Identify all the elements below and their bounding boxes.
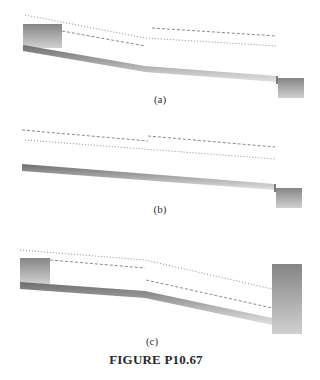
channel-end-step: [274, 184, 276, 192]
panel-label-b: (b): [154, 203, 167, 216]
dashed-line-2: [146, 280, 272, 308]
dashed-line-1: [22, 130, 148, 141]
dashed-line-1: [50, 260, 145, 268]
upstream-reservoir: [23, 24, 62, 48]
channel-bed: [20, 282, 272, 325]
panel-label-a: (a): [154, 93, 167, 106]
dotted-line: [20, 250, 272, 289]
channel-end-step: [276, 76, 278, 84]
channel-bed: [22, 164, 275, 190]
dashed-line-2: [152, 28, 277, 36]
downstream-reservoir: [272, 264, 302, 334]
dashed-line-1: [62, 31, 145, 46]
upstream-reservoir: [20, 258, 50, 284]
dashed-line-2: [148, 136, 275, 147]
dotted-line: [25, 15, 277, 46]
figure-p10-67: (a) (b) (c) FIGURE P10.67: [0, 0, 320, 380]
channel-bed: [23, 45, 277, 82]
downstream-reservoir: [278, 78, 304, 98]
panel-c: (c): [20, 250, 302, 348]
panel-label-c: (c): [146, 335, 159, 348]
dotted-line: [25, 140, 275, 159]
downstream-reservoir: [276, 188, 302, 208]
figure-caption: FIGURE P10.67: [109, 352, 203, 367]
panel-b: (b): [22, 130, 302, 216]
panel-a: (a): [23, 15, 304, 106]
